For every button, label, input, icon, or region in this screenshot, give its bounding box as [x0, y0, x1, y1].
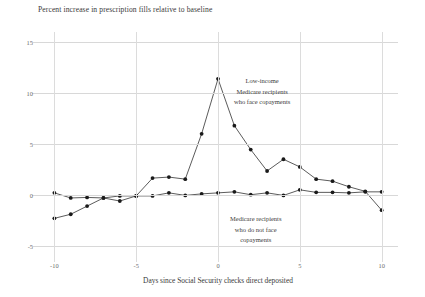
x-axis-tick-label: 5	[298, 262, 301, 269]
annotation-no-copayments-group: Medicare recipientswho do not facecopaym…	[230, 214, 281, 246]
y-axis-tick-label: 15	[27, 39, 33, 46]
plot-area: -5051015-10-50510	[38, 32, 398, 256]
x-axis-tick-label: -10	[50, 262, 59, 269]
chart-figure: Percent increase in prescription fills r…	[0, 0, 425, 297]
gridline-horizontal	[32, 144, 398, 145]
chart-title: Percent increase in prescription fills r…	[38, 5, 212, 14]
data-point	[118, 199, 122, 203]
y-axis-tick-label: 10	[27, 90, 33, 97]
x-axis-tick-label: 0	[216, 262, 219, 269]
data-point	[314, 190, 318, 194]
data-point	[167, 175, 171, 179]
x-axis-tick-label: 10	[378, 262, 384, 269]
gridline-vertical	[54, 32, 55, 262]
data-point	[183, 177, 187, 181]
gridline-vertical	[218, 32, 219, 262]
data-point	[249, 148, 253, 152]
data-point	[232, 190, 236, 194]
x-axis-label: Days since Social Security checks direct…	[38, 276, 398, 285]
data-point	[265, 169, 269, 173]
data-point	[347, 185, 351, 189]
gridline-vertical	[300, 32, 301, 262]
data-point	[363, 190, 367, 194]
data-point	[69, 196, 73, 200]
data-point	[151, 176, 155, 180]
data-point	[331, 190, 335, 194]
annotation-line: who face copayments	[234, 97, 290, 108]
data-point	[314, 177, 318, 181]
data-point	[69, 212, 73, 216]
data-point	[282, 157, 286, 161]
gridline-vertical	[382, 32, 383, 262]
annotation-line: Medicare recipients	[234, 87, 290, 98]
annotation-line: who do not face	[230, 225, 281, 236]
gridline-horizontal	[32, 93, 398, 94]
annotation-line: Medicare recipients	[230, 214, 281, 225]
data-point	[85, 204, 89, 208]
gridline-horizontal	[32, 42, 398, 43]
data-point	[232, 124, 236, 128]
y-axis-tick-label: -5	[28, 242, 33, 249]
data-point	[102, 196, 106, 200]
data-point	[200, 132, 204, 136]
y-axis-tick-label: 0	[30, 191, 33, 198]
gridline-horizontal	[32, 246, 398, 247]
gridline-horizontal	[32, 195, 398, 196]
annotation-line: Low-income	[234, 76, 290, 87]
annotation-copayments-group: Low-incomeMedicare recipientswho face co…	[234, 76, 290, 108]
gridline-vertical	[136, 32, 137, 262]
y-axis-tick-label: 5	[30, 141, 33, 148]
data-point	[85, 196, 89, 200]
data-point	[331, 179, 335, 183]
annotation-line: copayments	[230, 235, 281, 246]
x-axis-tick-label: -5	[134, 262, 139, 269]
